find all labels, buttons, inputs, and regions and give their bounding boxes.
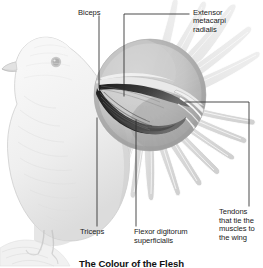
figure-caption: The Colour of the Flesh [0, 258, 263, 268]
callout-label-triceps: Triceps [80, 228, 104, 237]
callout-label-tendons: Tendons that tie the muscles to the wing [219, 208, 255, 242]
callout-label-extensor-metacarpi-radialis: Extensor metacarpi radialis [193, 9, 226, 35]
callout-label-flexor-digitorum-superficialis: Flexor digitorum superficialis [134, 228, 188, 245]
bird-anatomy-figure: Biceps Extensor metacarpi radialis Trice… [0, 0, 263, 268]
callout-label-biceps: Biceps [78, 9, 101, 18]
